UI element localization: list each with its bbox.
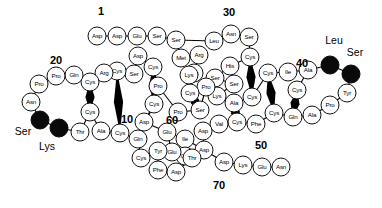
residue-bead[interactable]: Asp [215,153,234,172]
residue-label: Leu [209,38,219,44]
residue-bead[interactable]: Cys [181,84,200,103]
residue-label: Val [215,121,223,127]
residue-label: Asp [198,128,208,134]
residue-label: Ala [308,112,316,118]
protein-sequence-diagram: AspAspGluSerSerMetArgLysLeuAsnSerCysHisS… [0,0,382,208]
residue-bead[interactable]: Cys [265,104,284,123]
residue-bead[interactable]: Cys [288,81,307,100]
position-number-label: 1 [98,5,104,17]
residue-bead[interactable]: Ser [191,101,210,120]
residue-bead[interactable]: Cys [111,124,130,143]
residue-bead[interactable]: Gln [284,108,303,127]
residue-bead[interactable]: Ala [303,106,322,125]
residue-bead[interactable]: Lys [50,119,69,138]
residue-bead[interactable]: Ser [148,27,167,46]
position-number-label: 40 [296,57,308,69]
residue-bead[interactable]: Asp [194,122,213,141]
residue-label: Ala [230,100,238,106]
residue-label: Pro [325,102,334,108]
residue-bead[interactable]: Cys [241,48,260,67]
residue-bead[interactable]: Tyr [149,142,168,161]
residue-label: Pro [201,84,210,90]
residue-bead[interactable]: Phe [247,115,266,134]
residue-bead[interactable]: Ala [92,122,111,141]
residue-bead[interactable]: Thr [183,149,202,168]
residue-label: Thr [76,129,85,135]
residue-bead[interactable]: Asp [88,27,107,46]
residue-label: Pro [153,83,162,89]
residue-bead[interactable]: Thr [71,123,90,142]
residue-label: Ser [229,81,238,87]
residue-label: Cys [247,94,257,100]
residue-bead[interactable]: Ser [31,111,50,130]
residue-label: Cys [115,130,125,136]
residue-bead[interactable]: Phe [149,161,168,180]
residue-label: Arg [194,52,203,58]
residue-bead[interactable]: Cys [81,103,100,122]
position-number-label: 60 [166,114,178,126]
residue-bead[interactable]: Leu [321,56,340,75]
residue-label: Glu [162,129,171,135]
residue-bead[interactable]: Lys [234,156,253,175]
residue-bead[interactable]: Pro [47,67,66,86]
residue-bead[interactable]: Cys [243,88,262,107]
terminal-residue-label: Lys [39,140,55,152]
residue-bead[interactable]: Cys [228,113,247,132]
residue-label: Pro [51,73,60,79]
residue-bead[interactable]: Asn [222,25,241,44]
residue-bead[interactable]: Cys [145,95,164,114]
residue-label: Ile [285,69,291,75]
residue-label: Cys [292,87,302,93]
residue-bead[interactable]: Lys [180,66,199,85]
residue-label: Ser [195,107,204,113]
residue-bead[interactable]: Gln [65,66,84,85]
residue-label: Met [176,55,186,61]
residue-label: Cys [136,155,146,161]
residue-bead[interactable]: Asp [108,27,127,46]
residue-label: Lys [213,93,222,99]
position-number-label: 30 [223,6,235,18]
residue-bead[interactable]: Arg [190,46,209,65]
residue-label: Asp [171,169,181,175]
residue-bead[interactable]: Ile [279,63,298,82]
residue-bead[interactable]: Gln [129,130,148,149]
residue-label: Ala [97,128,105,134]
residue-bead[interactable]: Ser [125,65,144,84]
residue-label: Cys [185,90,195,96]
residue-bead[interactable]: Tyr [338,84,357,103]
residue-label: Cys [263,70,273,76]
residue-label: Tyr [154,148,162,154]
residue-bead[interactable]: Ser [225,75,244,94]
position-number-label: 10 [121,113,133,125]
residue-bead[interactable]: Ala [225,94,244,113]
residue-label: Cys [269,110,279,116]
position-number-label: 50 [255,139,267,151]
residue-bead[interactable]: Cys [259,64,278,83]
residue-bead[interactable]: Asp [129,47,148,66]
residue-label: Lys [55,125,64,131]
residue-label: Asp [139,119,149,125]
residue-bead[interactable]: Glu [128,27,147,46]
residue-label: Cys [85,109,95,115]
residue-label: Ser [129,71,138,77]
residue-label: Tyr [343,90,351,96]
residue-bead[interactable]: Ser [167,31,186,50]
residue-label: Lys [239,162,248,168]
residue-label: Asn [226,31,236,37]
residue-label: Ser [152,33,161,39]
residue-bead[interactable]: Asp [167,163,186,182]
residue-bead[interactable]: Pro [321,96,340,115]
residue-bead[interactable]: Pro [149,77,168,96]
residue-bead[interactable]: Asn [22,93,41,112]
residue-label: Asp [92,33,102,39]
residue-bead[interactable]: Glu [253,158,272,177]
residue-label: Ile [182,136,188,142]
residue-label: Thr [188,155,197,161]
residue-bead[interactable]: Ser [240,28,259,47]
residue-bead[interactable]: Asn [272,158,291,177]
residue-bead[interactable]: Pro [30,75,49,94]
position-number-label: 20 [50,54,62,66]
residue-label: Glu [132,33,141,39]
residue-bead[interactable]: Ser [342,65,361,84]
residue-label: Phe [251,121,261,127]
